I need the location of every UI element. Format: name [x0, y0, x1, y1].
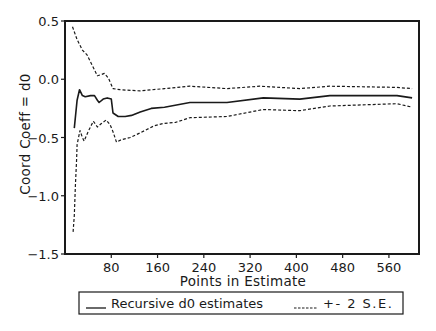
estimate-line: [74, 90, 412, 129]
y-tick-label: 0.0: [38, 72, 59, 87]
chart-figure: 0.50.0−0.5−1.0−1.5 80160240320400480560 …: [0, 0, 436, 331]
x-axis-label: Points in Estimate: [180, 273, 306, 289]
se-band-line: [73, 27, 413, 91]
x-tick-label: 80: [103, 260, 120, 275]
y-axis-label: Coord Coeff = d0: [17, 73, 33, 194]
plot-series: [73, 27, 413, 232]
x-tick-label: 560: [377, 260, 402, 275]
plot-frame: [65, 21, 419, 254]
x-tick-label: 160: [145, 260, 170, 275]
legend-label-se: +- 2 S.E.: [323, 296, 393, 311]
y-tick-label: 0.5: [38, 14, 59, 29]
se-band-line: [73, 104, 412, 232]
legend-label-estimates: Recursive d0 estimates: [111, 296, 263, 311]
y-tick-label: −1.5: [27, 247, 59, 262]
x-tick-label: 480: [330, 260, 355, 275]
legend: Recursive d0 estimates +- 2 S.E.: [79, 292, 403, 314]
